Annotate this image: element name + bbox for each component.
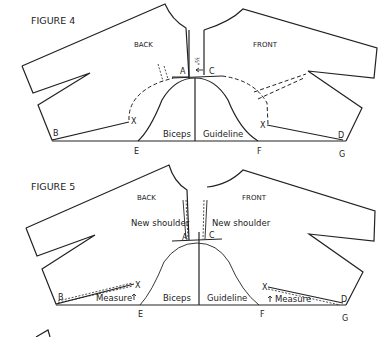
point-f: F: [257, 147, 262, 156]
back-panel-outline: [26, 165, 189, 240]
front-label: FRONT: [253, 41, 278, 49]
figure-5-title: FIGURE 5: [31, 181, 75, 192]
arrow-up-icon: [268, 296, 272, 302]
point-e: E: [138, 310, 143, 319]
back-sleeve-dart: [22, 66, 129, 140]
pattern-diagram: FIGURE 4 ½" BACK FRONT A C B X X E F: [0, 0, 381, 337]
measure-left-label: Measure: [96, 293, 132, 303]
new-shoulder-right-dashed: [203, 200, 204, 239]
point-f: F: [260, 310, 265, 319]
biceps-label: Biceps: [163, 293, 191, 303]
point-x-front: X: [260, 121, 266, 130]
figure-5: FIGURE 5 BACK FRONT New shoulder New sho…: [26, 165, 375, 323]
front-armhole-dashed: [222, 76, 268, 124]
front-label: FRONT: [242, 194, 267, 202]
figure-4: FIGURE 4 ½" BACK FRONT A C B X X E F: [22, 4, 377, 159]
point-d: D: [341, 295, 347, 304]
arrow-up-icon: [132, 294, 136, 300]
front-side-line: [267, 125, 343, 140]
point-c: C: [209, 231, 215, 240]
arrow-left-icon: [196, 68, 203, 72]
point-x-back: X: [135, 281, 141, 290]
front-panel-outline: [207, 170, 375, 305]
point-g: G: [342, 314, 348, 323]
point-d: D: [338, 131, 344, 140]
point-e: E: [134, 147, 139, 156]
back-label: BACK: [134, 41, 153, 49]
half-inch-label: ½": [194, 57, 201, 66]
front-panel-outline: [204, 9, 377, 141]
point-a: A: [182, 233, 188, 242]
new-shoulder-right-line: [205, 200, 207, 239]
point-a: A: [180, 67, 186, 76]
measure-right-label: Measure: [275, 294, 311, 304]
back-label: BACK: [137, 194, 156, 202]
figure-4-title: FIGURE 4: [31, 15, 75, 26]
guideline-label: Guideline: [207, 293, 247, 303]
back-armhole-dashed: [129, 78, 173, 120]
point-c: C: [209, 67, 215, 76]
back-dart-dashed: [158, 64, 168, 81]
new-shoulder-left-label: New shoulder: [131, 218, 190, 228]
guideline-label: Guideline: [203, 129, 243, 139]
page-fragment: [36, 330, 50, 337]
point-x-front: X: [262, 283, 268, 292]
point-b: B: [53, 129, 59, 138]
biceps-label: Biceps: [163, 129, 191, 139]
point-x-back: X: [131, 117, 137, 126]
point-b: B: [58, 293, 64, 302]
point-g: G: [339, 150, 345, 159]
new-shoulder-right-label: New shoulder: [212, 218, 271, 228]
front-dart-dashed: [254, 74, 306, 99]
